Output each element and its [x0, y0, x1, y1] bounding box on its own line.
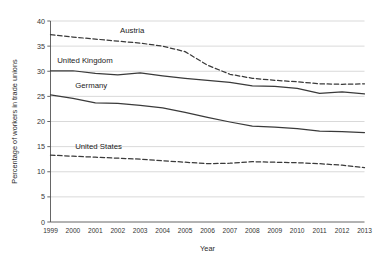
y-tick-label: 5 — [41, 192, 45, 201]
trade-union-membership-line-chart: 0510152025303540 19992000200120022003200… — [0, 0, 376, 263]
x-tick-label: 2004 — [155, 227, 170, 234]
y-axis-title: Percentage of workers in trade unions — [10, 59, 19, 184]
series-label-united-kingdom: United Kingdom — [57, 56, 112, 65]
y-tick-label: 20 — [37, 117, 45, 126]
y-tick-labels-group: 0510152025303540 — [37, 17, 45, 227]
x-tick-label: 2001 — [88, 227, 103, 234]
y-tick-label: 10 — [37, 167, 45, 176]
y-tick-label: 0 — [41, 218, 45, 227]
y-tick-label: 35 — [37, 42, 45, 51]
y-tick-label: 15 — [37, 142, 45, 151]
x-tick-labels-group: 1999200020012002200320042005200620072008… — [43, 227, 372, 234]
x-tick-label: 2008 — [245, 227, 260, 234]
gridlines-group — [51, 21, 365, 197]
x-tick-label: 2010 — [290, 227, 305, 234]
x-tick-label: 2009 — [267, 227, 282, 234]
x-tick-label: 2002 — [110, 227, 125, 234]
x-tick-label: 2000 — [66, 227, 81, 234]
series-label-germany: Germany — [75, 81, 107, 90]
series-labels-group: AustriaUnited KingdomGermanyUnited State… — [57, 26, 145, 151]
x-tick-label: 2012 — [335, 227, 350, 234]
series-line-germany — [51, 95, 365, 133]
y-tick-label: 25 — [37, 92, 45, 101]
series-label-united-states: United States — [75, 142, 122, 151]
chart-plot-area: 0510152025303540 19992000200120022003200… — [0, 0, 376, 263]
y-tick-label: 30 — [37, 67, 45, 76]
y-tick-label: 40 — [37, 17, 45, 26]
x-tick-label: 2011 — [313, 227, 328, 234]
series-label-austria: Austria — [120, 26, 145, 35]
x-axis-title: Year — [200, 244, 215, 253]
x-tick-label: 2007 — [223, 227, 238, 234]
x-tick-label: 2013 — [357, 227, 372, 234]
x-tick-label: 2006 — [200, 227, 215, 234]
x-tick-label: 1999 — [43, 227, 58, 234]
series-line-united-states — [51, 155, 365, 168]
x-tick-label: 2003 — [133, 227, 148, 234]
x-tick-label: 2005 — [178, 227, 193, 234]
